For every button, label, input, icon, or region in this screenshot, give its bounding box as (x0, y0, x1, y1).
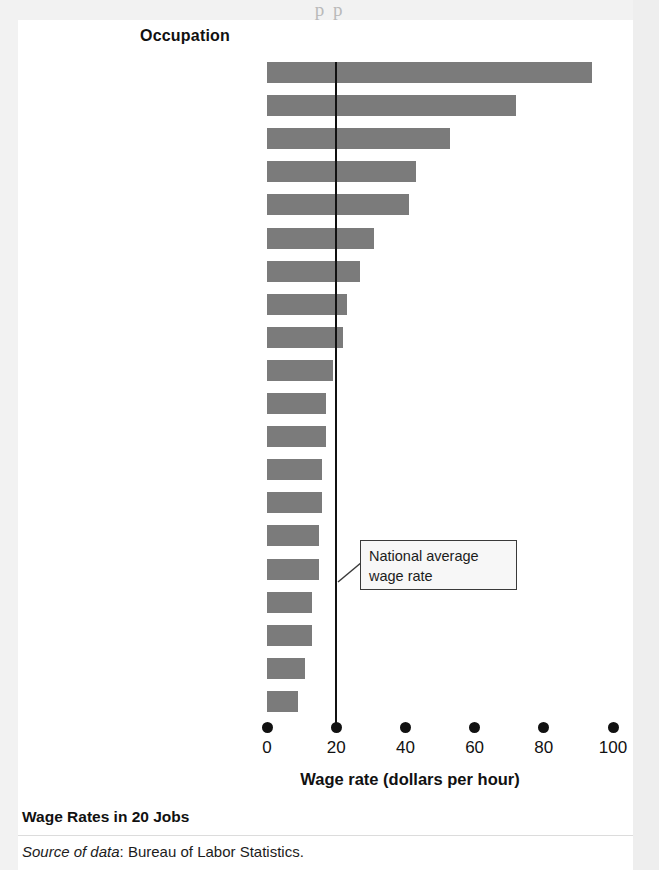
axis-tick-label: 40 (375, 738, 435, 758)
bar (267, 95, 516, 116)
bar (267, 625, 312, 646)
axis-tick-label: 20 (306, 738, 366, 758)
bar (267, 128, 450, 149)
axis-tick-dot (262, 722, 273, 733)
annotation-callout: National average wage rate (360, 540, 517, 590)
bar (267, 691, 298, 712)
annotation-line-1: National average (369, 546, 508, 566)
bar (267, 228, 374, 249)
bar (267, 360, 333, 381)
figure-source-text: : Bureau of Labor Statistics. (120, 843, 304, 860)
bar (267, 62, 592, 83)
annotation-line-2: wage rate (369, 566, 508, 586)
figure-source: Source of data: Bureau of Labor Statisti… (22, 843, 304, 860)
axis-tick-label: 60 (445, 738, 505, 758)
bar (267, 559, 319, 580)
bar (267, 327, 343, 348)
bar (267, 393, 326, 414)
axis-tick-label: 100 (583, 738, 643, 758)
category-axis-title: Occupation (140, 27, 340, 45)
bar (267, 658, 305, 679)
figure-title: Wage Rates in 20 Jobs (22, 808, 189, 826)
axis-tick-dot (469, 722, 480, 733)
figure-divider (18, 835, 633, 836)
axis-tick-label: 0 (237, 738, 297, 758)
bar (267, 525, 319, 546)
bar (267, 161, 416, 182)
bar (267, 492, 322, 513)
reference-line-national-average (335, 62, 337, 727)
axis-tick-label: 80 (514, 738, 574, 758)
bar (267, 592, 312, 613)
axis-tick-dot (538, 722, 549, 733)
value-axis-title: Wage rate (dollars per hour) (200, 770, 620, 789)
bar (267, 261, 360, 282)
axis-tick-dot (331, 722, 342, 733)
bar (267, 194, 409, 215)
bar (267, 426, 326, 447)
axis-tick-dot (608, 722, 619, 733)
bar-chart: Occupation SurgeonsDentistsAir traffic c… (0, 0, 659, 870)
axis-tick-dot (400, 722, 411, 733)
bar (267, 459, 322, 480)
figure-source-prefix: Source of data (22, 843, 120, 860)
